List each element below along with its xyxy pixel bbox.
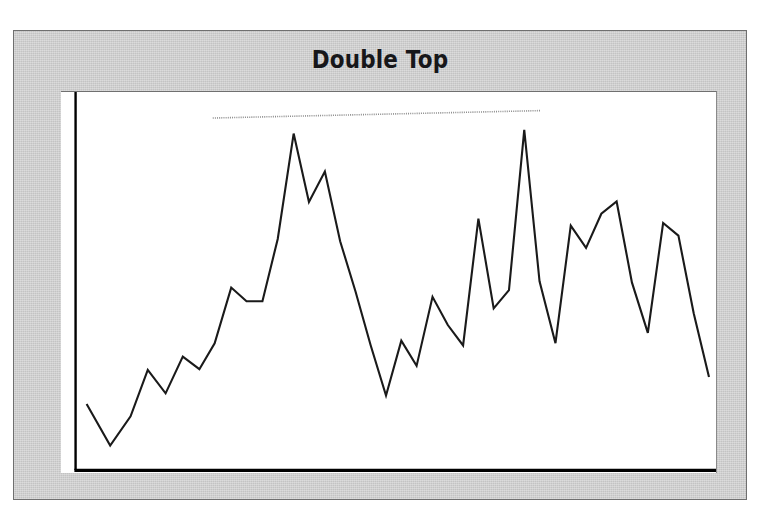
chart-title: Double Top [65,45,695,74]
chart-frame: Double Top [13,30,747,500]
chart-screenshot: Double Top [0,0,760,527]
price-series-line [87,130,709,446]
plot-svg [61,92,716,473]
resistance-line [213,111,541,118]
plot-area [61,91,717,473]
